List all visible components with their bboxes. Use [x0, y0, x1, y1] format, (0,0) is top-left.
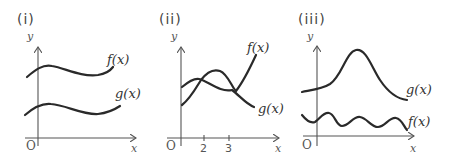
origin-label: O: [302, 138, 312, 152]
panel-label: (iii): [298, 11, 326, 27]
panel-label: (ii): [159, 11, 182, 27]
curve-g-label: g(x): [406, 82, 432, 97]
y-axis-label: y: [306, 30, 314, 43]
x-axis-label: x: [275, 142, 282, 155]
curve-g: [302, 50, 407, 100]
function-graphs-figure: (i) y x O f(x) g(x) (ii) y x O 2 3 f(x) …: [0, 0, 454, 158]
origin-label: O: [26, 139, 36, 153]
panel-ii: (ii) y x O 2 3 f(x) g(x): [159, 11, 284, 155]
panel-label: (i): [17, 11, 35, 27]
y-axis-label: y: [26, 30, 34, 43]
curve-g-label: g(x): [115, 86, 141, 101]
curve-f: [27, 66, 113, 77]
curve-f: [302, 113, 407, 130]
curve-f-label: f(x): [407, 114, 430, 129]
curve-g-label: g(x): [258, 101, 284, 116]
curve-f-label: f(x): [106, 52, 129, 67]
panel-iii: (iii) y x O g(x) f(x): [298, 11, 432, 155]
x-axis-label: x: [410, 142, 417, 155]
panel-i: (i) y x O f(x) g(x): [17, 11, 141, 155]
tick-label-2: 2: [200, 142, 207, 155]
y-axis-label: y: [170, 30, 178, 43]
x-axis-label: x: [131, 142, 138, 155]
origin-label: O: [166, 139, 176, 153]
curve-f-label: f(x): [246, 40, 269, 55]
tick-label-3: 3: [225, 142, 232, 155]
curve-g: [25, 104, 120, 115]
